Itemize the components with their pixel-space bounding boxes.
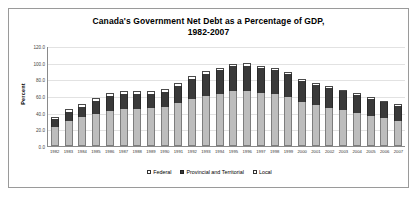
- bar-1995: [229, 64, 237, 146]
- bar-2004: [353, 93, 361, 146]
- bar-segment-fed: [380, 118, 388, 146]
- bar-segment-fed: [257, 93, 265, 146]
- bar-1997: [257, 66, 265, 146]
- bar-1994: [216, 68, 224, 146]
- x-axis-tick-label: 1990: [160, 149, 168, 161]
- bar-segment-fed: [78, 117, 86, 146]
- bar-segment-prov: [229, 66, 237, 91]
- bar-segment-prov: [216, 70, 224, 94]
- bar-segment-prov: [161, 92, 169, 107]
- bar-segment-prov: [78, 107, 86, 117]
- bar-segment-fed: [65, 121, 73, 146]
- x-axis-tick-label: 1991: [174, 149, 182, 161]
- bar-segment-fed: [271, 94, 279, 146]
- x-axis-tick-label: 2006: [380, 149, 388, 161]
- bar-1989: [147, 91, 155, 146]
- bar-segment-prov: [188, 79, 196, 99]
- bar-segment-prov: [271, 70, 279, 94]
- bar-segment-fed: [298, 102, 306, 146]
- bar-segment-prov: [51, 119, 59, 127]
- bar-segment-prov: [380, 102, 388, 118]
- x-axis-tick-label: 1993: [201, 149, 209, 161]
- x-axis-tick-label: 1999: [284, 149, 292, 161]
- bar-1993: [202, 71, 210, 146]
- bar-1987: [120, 91, 128, 146]
- bar-segment-fed: [92, 114, 100, 147]
- bar-1992: [188, 76, 196, 146]
- bar-segment-fed: [147, 108, 155, 146]
- x-axis-tick-label: 1988: [133, 149, 141, 161]
- bar-1990: [161, 89, 169, 146]
- bar-series-group: [48, 47, 405, 146]
- bar-2000: [298, 79, 306, 146]
- bar-2007: [394, 104, 402, 146]
- x-axis-tick-label: 1986: [105, 149, 113, 161]
- chart-title: Canada's Government Net Debt as a Percen…: [9, 16, 408, 38]
- bar-segment-fed: [394, 121, 402, 146]
- bar-1982: [51, 117, 59, 146]
- bar-segment-prov: [92, 101, 100, 114]
- legend-item-federal[interactable]: Federal: [147, 169, 171, 175]
- x-axis-tick-label: 1997: [256, 149, 264, 161]
- legend-item-local[interactable]: Local: [253, 169, 272, 175]
- plot-area: [47, 47, 405, 147]
- bar-segment-fed: [284, 97, 292, 146]
- bar-segment-prov: [339, 91, 347, 110]
- y-axis-tick-label: 20.0: [36, 128, 45, 133]
- bar-segment-fed: [161, 107, 169, 146]
- bar-segment-prov: [257, 68, 265, 93]
- y-axis-tick-label: 40.0: [36, 111, 45, 116]
- bar-segment-prov: [394, 106, 402, 121]
- bar-segment-fed: [202, 96, 210, 146]
- bar-segment-prov: [325, 88, 333, 108]
- bar-segment-prov: [120, 94, 128, 109]
- x-axis-tick-label: 1989: [146, 149, 154, 161]
- bar-segment-fed: [339, 110, 347, 146]
- x-axis-tick-label: 2007: [394, 149, 402, 161]
- bar-segment-prov: [298, 81, 306, 102]
- x-axis-tick-label: 2003: [339, 149, 347, 161]
- legend-item-provincial-and-territorial[interactable]: Provincial and Territorial: [180, 169, 243, 175]
- bar-segment-fed: [120, 109, 128, 146]
- x-axis-tick-label: 1995: [229, 149, 237, 161]
- bar-segment-prov: [243, 66, 251, 91]
- bar-2001: [312, 83, 320, 146]
- bar-1985: [92, 98, 100, 146]
- x-axis-tick-label: 1992: [188, 149, 196, 161]
- x-axis-tick-label: 1985: [91, 149, 99, 161]
- legend-swatch-icon: [253, 170, 257, 174]
- chart-legend: FederalProvincial and TerritorialLocal: [9, 169, 410, 175]
- y-axis-tick-label: 100.0: [34, 61, 46, 66]
- bar-segment-prov: [106, 96, 114, 111]
- chart-title-line1: Canada's Government Net Debt as a Percen…: [93, 16, 325, 26]
- bar-segment-prov: [202, 74, 210, 96]
- x-axis-tick-label: 1983: [64, 149, 72, 161]
- y-axis-tick-label: 80.0: [36, 78, 45, 83]
- y-axis-tick-label: 0.0: [39, 145, 45, 150]
- bar-1983: [65, 109, 73, 146]
- plot-wrapper: Percent 0.020.040.060.080.0100.0120.0 19…: [9, 47, 410, 157]
- bar-segment-fed: [312, 105, 320, 146]
- bar-segment-fed: [174, 103, 182, 146]
- x-axis-tick-label: 2002: [325, 149, 333, 161]
- bar-segment-prov: [133, 94, 141, 109]
- x-axis-tick-label: 1998: [270, 149, 278, 161]
- chart-frame: Canada's Government Net Debt as a Percen…: [8, 8, 409, 188]
- legend-swatch-icon: [180, 170, 184, 174]
- bar-segment-fed: [51, 127, 59, 146]
- bar-segment-fed: [133, 109, 141, 147]
- x-axis-tick-label: 1994: [215, 149, 223, 161]
- y-axis-tick-label: 120.0: [34, 45, 46, 50]
- bar-2006: [380, 101, 388, 146]
- bar-1988: [133, 91, 141, 146]
- bar-segment-prov: [147, 94, 155, 109]
- bar-2005: [367, 97, 375, 146]
- x-axis-tick-label: 1987: [119, 149, 127, 161]
- y-axis-tick-label: 60.0: [36, 95, 45, 100]
- x-axis-tick-label: 1982: [50, 149, 58, 161]
- bar-segment-prov: [174, 86, 182, 104]
- bar-segment-prov: [353, 95, 361, 113]
- bar-segment-fed: [229, 91, 237, 146]
- bar-1998: [271, 68, 279, 146]
- x-axis-tick-label: 1996: [243, 149, 251, 161]
